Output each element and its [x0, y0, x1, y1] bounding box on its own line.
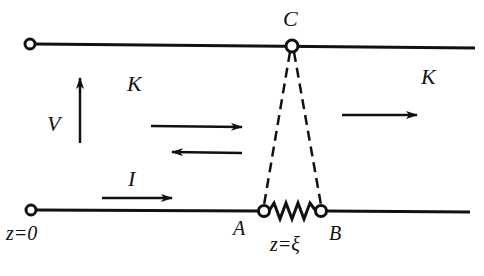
terminal-bottom-left: [26, 205, 36, 215]
reflected-wave-arrow-icon: [172, 152, 242, 153]
label-voltage: V: [47, 111, 63, 136]
node-c: [286, 40, 298, 52]
dashed-line-c-to-b: [294, 52, 321, 205]
label-current: I: [127, 166, 137, 191]
label-origin: z=0: [5, 222, 37, 244]
label-load-position: z=ξ: [269, 233, 300, 255]
transmission-line-diagram: C K K V I z=0 A B z=ξ: [0, 0, 484, 276]
label-region-left: K: [126, 71, 143, 96]
node-b: [316, 206, 327, 217]
label-node-a: A: [231, 217, 246, 239]
incident-wave-arrow-icon: [151, 126, 242, 127]
top-conductor: [35, 44, 475, 48]
bottom-conductor-left: [36, 210, 259, 211]
node-a: [259, 206, 270, 217]
bottom-conductor-right: [326, 211, 470, 212]
resistor-icon: [269, 203, 316, 219]
dashed-line-c-to-a: [264, 52, 290, 205]
label-node-c: C: [283, 6, 298, 31]
terminal-top-left: [25, 39, 35, 49]
label-node-b: B: [329, 222, 341, 244]
label-region-right: K: [420, 64, 437, 89]
